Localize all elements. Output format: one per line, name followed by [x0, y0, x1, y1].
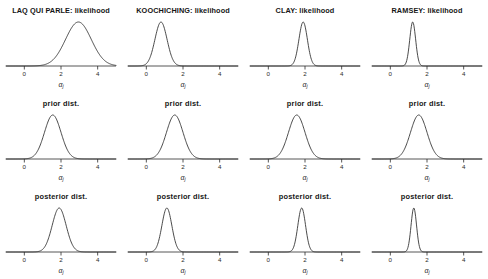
- plot-area: 024: [122, 0, 244, 93]
- panel-priordist-clay: prior dist.024αj: [244, 93, 366, 186]
- x-axis-tick-label: 2: [425, 256, 429, 263]
- alpha-subscript: j: [428, 176, 429, 182]
- panel-likelihood-laq-qui-parle: LAQ QUI PARLE: likelihood024αj: [0, 0, 122, 93]
- alpha-subscript: j: [306, 83, 307, 89]
- alpha-subscript: j: [184, 83, 185, 89]
- plot-area: 024: [366, 0, 488, 93]
- density-curve: [6, 22, 116, 66]
- alpha-subscript: j: [184, 269, 185, 275]
- density-curve: [128, 22, 238, 66]
- panel-posteriordist-koochiching: posterior dist.024αj: [122, 186, 244, 279]
- alpha-subscript: j: [62, 176, 63, 182]
- x-axis-tick-label: 2: [303, 256, 307, 263]
- panel-likelihood-clay: CLAY: likelihood024αj: [244, 0, 366, 93]
- alpha-subscript: j: [306, 176, 307, 182]
- x-axis-tick-label: 2: [59, 256, 63, 263]
- plot-area: 024: [0, 186, 122, 279]
- x-axis-caption: αj: [366, 81, 488, 90]
- x-axis-tick-label: 0: [23, 70, 27, 77]
- plot-area: 024: [0, 0, 122, 93]
- x-axis-tick-label: 4: [96, 256, 100, 263]
- plot-area: 024: [244, 0, 366, 93]
- density-curve: [372, 22, 482, 66]
- x-axis-caption: αj: [0, 267, 122, 276]
- x-axis-tick-label: 0: [389, 163, 393, 170]
- density-curve: [372, 115, 482, 159]
- density-curve: [6, 115, 116, 159]
- x-axis-tick-label: 4: [96, 70, 100, 77]
- x-axis-caption: αj: [122, 267, 244, 276]
- x-axis-caption: αj: [122, 174, 244, 183]
- density-curve: [372, 208, 482, 252]
- density-curve: [250, 208, 360, 252]
- x-axis-tick-label: 4: [96, 163, 100, 170]
- plot-area: 024: [0, 93, 122, 186]
- plot-area: 024: [366, 186, 488, 279]
- x-axis-tick-label: 2: [425, 70, 429, 77]
- alpha-subscript: j: [428, 83, 429, 89]
- x-axis-tick-label: 4: [340, 70, 344, 77]
- panel-posteriordist-laq-qui-parle: posterior dist.024αj: [0, 186, 122, 279]
- panel-posteriordist-clay: posterior dist.024αj: [244, 186, 366, 279]
- plot-area: 024: [122, 93, 244, 186]
- x-axis-tick-label: 4: [218, 256, 222, 263]
- x-axis-tick-label: 2: [59, 70, 63, 77]
- x-axis-tick-label: 0: [145, 256, 149, 263]
- x-axis-tick-label: 0: [145, 163, 149, 170]
- panel-posteriordist-ramsey: posterior dist.024αj: [366, 186, 488, 279]
- x-axis-caption: αj: [366, 267, 488, 276]
- x-axis-tick-label: 4: [340, 163, 344, 170]
- alpha-subscript: j: [428, 269, 429, 275]
- panel-priordist-koochiching: prior dist.024αj: [122, 93, 244, 186]
- x-axis-tick-label: 2: [303, 163, 307, 170]
- x-axis-tick-label: 0: [389, 70, 393, 77]
- x-axis-caption: αj: [122, 81, 244, 90]
- x-axis-tick-label: 4: [462, 163, 466, 170]
- density-curve: [250, 22, 360, 66]
- panel-priordist-laq-qui-parle: prior dist.024αj: [0, 93, 122, 186]
- x-axis-caption: αj: [244, 81, 366, 90]
- x-axis-tick-label: 0: [267, 70, 271, 77]
- panel-likelihood-koochiching: KOOCHICHING: likelihood024αj: [122, 0, 244, 93]
- plot-area: 024: [244, 186, 366, 279]
- alpha-subscript: j: [306, 269, 307, 275]
- x-axis-tick-label: 2: [181, 256, 185, 263]
- x-axis-tick-label: 0: [23, 163, 27, 170]
- x-axis-caption: αj: [366, 174, 488, 183]
- density-curve: [6, 208, 116, 252]
- x-axis-caption: αj: [244, 267, 366, 276]
- density-curve: [128, 208, 238, 252]
- plot-area: 024: [122, 186, 244, 279]
- x-axis-tick-label: 0: [267, 163, 271, 170]
- x-axis-tick-label: 0: [267, 256, 271, 263]
- x-axis-tick-label: 4: [462, 70, 466, 77]
- alpha-subscript: j: [184, 176, 185, 182]
- x-axis-tick-label: 0: [389, 256, 393, 263]
- plot-area: 024: [366, 93, 488, 186]
- alpha-subscript: j: [62, 269, 63, 275]
- plot-area: 024: [244, 93, 366, 186]
- x-axis-caption: αj: [0, 81, 122, 90]
- density-curve: [250, 115, 360, 159]
- x-axis-tick-label: 2: [181, 163, 185, 170]
- figure-panel-grid: LAQ QUI PARLE: likelihood024αjKOOCHICHIN…: [0, 0, 488, 279]
- panel-likelihood-ramsey: RAMSEY: likelihood024αj: [366, 0, 488, 93]
- panel-priordist-ramsey: prior dist.024αj: [366, 93, 488, 186]
- x-axis-tick-label: 2: [303, 70, 307, 77]
- density-curve: [128, 115, 238, 159]
- x-axis-tick-label: 2: [59, 163, 63, 170]
- x-axis-tick-label: 2: [425, 163, 429, 170]
- x-axis-caption: αj: [0, 174, 122, 183]
- x-axis-tick-label: 4: [218, 163, 222, 170]
- x-axis-tick-label: 4: [218, 70, 222, 77]
- x-axis-tick-label: 4: [340, 256, 344, 263]
- x-axis-tick-label: 2: [181, 70, 185, 77]
- x-axis-caption: αj: [244, 174, 366, 183]
- alpha-subscript: j: [62, 83, 63, 89]
- x-axis-tick-label: 0: [23, 256, 27, 263]
- x-axis-tick-label: 0: [145, 70, 149, 77]
- x-axis-tick-label: 4: [462, 256, 466, 263]
